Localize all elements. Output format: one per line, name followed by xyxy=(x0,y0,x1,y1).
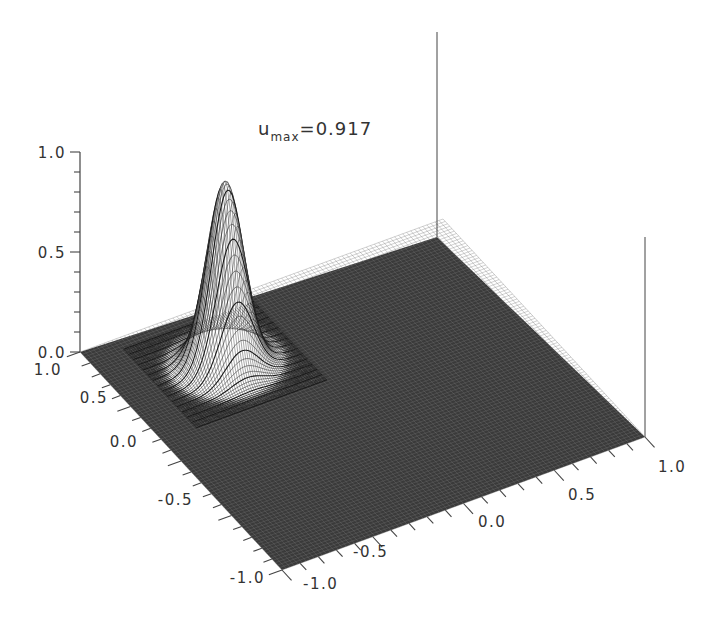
surface-plot: 0.00.51.0-1.0-0.50.00.51.0-1.0-0.50.00.5… xyxy=(0,0,722,619)
y-tick-label: -0.5 xyxy=(158,491,193,509)
z-tick-label: 0.5 xyxy=(38,244,66,262)
y-tick-label: 0.5 xyxy=(80,389,108,407)
y-tick-label: 1.0 xyxy=(34,361,62,379)
x-tick-label: -1.0 xyxy=(303,575,338,593)
z-tick-label: 0.0 xyxy=(38,344,66,362)
floor-fill xyxy=(80,237,645,570)
surface-floor xyxy=(80,219,645,570)
peak-annotation: umax=0.917 xyxy=(258,118,372,144)
x-tick-label: 0.5 xyxy=(568,486,596,504)
z-tick-label: 1.0 xyxy=(38,144,66,162)
x-tick-label: 1.0 xyxy=(658,458,686,476)
x-tick-label: 0.0 xyxy=(478,513,506,531)
x-tick-label: -0.5 xyxy=(353,543,388,561)
y-tick-label: 0.0 xyxy=(110,433,138,451)
y-tick-label: -1.0 xyxy=(230,569,265,587)
